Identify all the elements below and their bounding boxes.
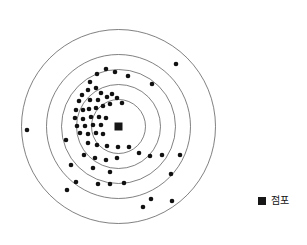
store-point — [86, 141, 91, 146]
store-point — [99, 123, 104, 128]
store-point — [91, 166, 96, 171]
store-point — [77, 99, 82, 104]
store-point — [104, 116, 109, 121]
store-point — [95, 143, 100, 148]
store-point — [108, 102, 113, 107]
store-point — [108, 182, 113, 187]
store-point — [94, 131, 99, 136]
store-point — [105, 95, 110, 100]
store-point — [88, 98, 93, 103]
store-point — [178, 153, 183, 158]
store-point — [141, 205, 146, 210]
store-point — [149, 197, 154, 202]
store-point — [75, 124, 80, 129]
center-store-marker — [115, 123, 123, 131]
store-point — [80, 93, 85, 98]
store-point — [83, 124, 88, 129]
store-point — [96, 182, 101, 187]
store-point — [115, 156, 120, 161]
store-point — [89, 115, 94, 120]
store-point — [94, 106, 99, 111]
store-point — [104, 158, 109, 163]
store-point — [97, 115, 102, 120]
store-point — [115, 96, 120, 101]
store-point — [86, 132, 91, 137]
store-point — [101, 132, 106, 137]
store-point — [170, 199, 175, 204]
legend-store-swatch-icon — [258, 197, 266, 205]
store-point — [160, 153, 165, 158]
store-point — [87, 107, 92, 112]
chart-legend: 점포 — [258, 196, 289, 206]
store-point — [169, 172, 174, 177]
store-point — [64, 138, 69, 143]
store-points-group — [25, 62, 183, 210]
store-point — [25, 128, 30, 133]
store-point — [82, 153, 87, 158]
store-point — [78, 131, 83, 136]
store-point — [73, 116, 78, 121]
store-point — [95, 72, 100, 77]
store-point — [113, 70, 118, 75]
store-point — [104, 67, 109, 72]
store-point — [174, 62, 179, 67]
store-point — [99, 91, 104, 96]
store-point — [108, 170, 113, 175]
store-point — [65, 188, 70, 193]
store-point — [74, 108, 79, 113]
store-point — [94, 86, 99, 91]
store-point — [137, 151, 142, 156]
store-point — [91, 123, 96, 128]
store-point — [116, 145, 121, 150]
store-point — [122, 181, 127, 186]
store-point — [126, 74, 131, 79]
store-point — [93, 156, 98, 161]
center-marker-group — [115, 123, 123, 131]
store-point — [150, 82, 155, 87]
store-point — [81, 108, 86, 113]
concentric-scatter-chart — [0, 0, 307, 245]
store-point — [127, 145, 132, 150]
store-point — [88, 80, 93, 85]
store-point — [120, 101, 125, 106]
store-point — [105, 144, 110, 149]
store-point — [110, 92, 115, 97]
legend-store-label: 점포 — [271, 196, 289, 206]
scatter-plot-figure: 점포 — [0, 0, 307, 245]
store-point — [101, 104, 106, 109]
store-point — [86, 88, 91, 93]
store-point — [81, 117, 86, 122]
store-point — [74, 180, 79, 185]
store-point — [69, 163, 74, 168]
store-point — [148, 154, 153, 159]
store-point — [96, 98, 101, 103]
